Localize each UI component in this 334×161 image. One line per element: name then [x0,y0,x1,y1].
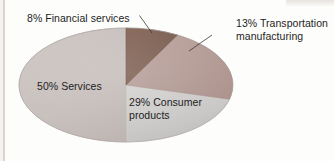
slice-label-transportation-line2: manufacturing [236,30,303,42]
slice-label-financial-services: 8% Financial services [27,12,130,25]
slice-label-consumer-line1: 29% Consumer [129,96,202,108]
slice-label-transportation-line1: 13% Transportation [236,17,328,29]
pie-chart-figure: 8% Financial services 13% Transportation… [0,0,334,161]
slice-label-consumer-line2: products [129,109,170,121]
slice-label-transportation-manufacturing: 13% Transportationmanufacturing [236,17,328,42]
slice-label-services: 50% Services [37,80,102,93]
slice-label-consumer-products: 29% Consumerproducts [129,96,202,121]
